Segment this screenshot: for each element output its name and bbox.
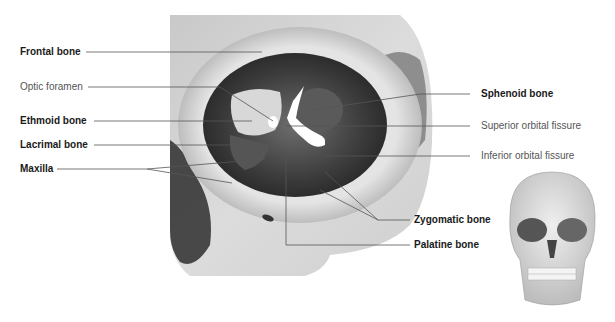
label-maxilla: Maxilla	[20, 163, 53, 175]
label-palatine-bone: Palatine bone	[414, 239, 479, 251]
label-superior-orbital-fissure: Superior orbital fissure	[481, 120, 581, 132]
label-frontal-bone: Frontal bone	[20, 46, 81, 58]
label-ethmoid-bone: Ethmoid bone	[20, 115, 87, 127]
bone-background	[170, 15, 432, 276]
skull-inset	[510, 172, 595, 305]
orbit-diagram: Frontal bone Optic foramen Ethmoid bone …	[0, 0, 615, 322]
label-sphenoid-bone: Sphenoid bone	[481, 88, 553, 100]
label-zygomatic-bone: Zygomatic bone	[414, 214, 491, 226]
label-inferior-orbital-fissure: Inferior orbital fissure	[481, 150, 574, 162]
label-optic-foramen: Optic foramen	[20, 81, 83, 93]
label-lacrimal-bone: Lacrimal bone	[20, 139, 88, 151]
